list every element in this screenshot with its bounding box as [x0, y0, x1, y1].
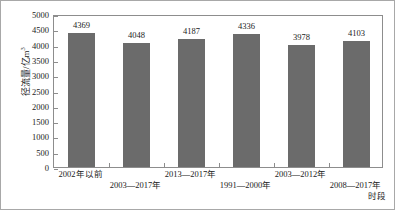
bar — [233, 34, 261, 167]
x-axis-tick-mark — [164, 163, 165, 167]
y-axis-tick-label: 4500 — [19, 26, 49, 35]
plot-area: 436940484187433639784103 — [53, 15, 383, 168]
bar — [123, 43, 151, 167]
bar-series: 436940484187433639784103 — [54, 16, 382, 167]
x-axis-tick-mark — [329, 163, 330, 167]
bar — [343, 41, 371, 167]
y-axis-tick-label: 2000 — [19, 103, 49, 112]
x-axis-tick-labels: 2002年以前2003—2017年2013—2017年1991—2000年200… — [1, 169, 395, 199]
y-axis-tick-mark — [54, 123, 58, 124]
y-axis-tick-mark — [54, 62, 58, 63]
bar-value-label: 4187 — [183, 27, 200, 36]
y-axis-tick-label: 5000 — [19, 11, 49, 20]
y-axis-tick-label: 3000 — [19, 72, 49, 81]
bar — [178, 39, 206, 167]
y-axis-tick-mark — [54, 93, 58, 94]
y-axis-tick-label: 3500 — [19, 57, 49, 66]
x-axis-tick-label: 2013—2017年 — [165, 170, 217, 179]
bar-value-label: 4103 — [348, 29, 365, 38]
bar — [68, 33, 96, 167]
y-axis-tick-label: 1500 — [19, 118, 49, 127]
y-axis-tick-mark — [54, 77, 58, 78]
y-axis-tick-mark — [54, 108, 58, 109]
y-axis-tick-label: 2500 — [19, 87, 49, 96]
y-axis-tick-label: 1000 — [19, 133, 49, 142]
bar-value-label: 4369 — [73, 21, 90, 30]
x-axis-tick-mark — [219, 163, 220, 167]
y-axis-tick-label: 4000 — [19, 41, 49, 50]
x-axis-tick-mark — [274, 163, 275, 167]
x-axis-tick-label: 1991—2000年 — [220, 181, 272, 190]
bar-value-label: 4048 — [128, 31, 145, 40]
x-axis-tick-label: 2008—2017年 — [330, 181, 382, 190]
x-axis-title: 时段 — [368, 192, 386, 201]
y-axis-tick-mark — [54, 154, 58, 155]
y-axis-tick-mark — [54, 16, 58, 17]
y-axis-tick-mark — [54, 138, 58, 139]
bar-value-label: 3978 — [293, 33, 310, 42]
bar — [288, 45, 316, 167]
x-axis-tick-mark — [109, 163, 110, 167]
x-axis-tick-label: 2003—2017年 — [110, 181, 162, 190]
y-axis-tick-mark — [54, 47, 58, 48]
y-axis-tick-label: 500 — [19, 148, 49, 157]
chart-figure: 径流量/亿m3 05001000150020002500300035004000… — [0, 0, 395, 210]
x-axis-tick-label: 2003—2012年 — [275, 170, 327, 179]
x-axis-tick-label: 2002年以前 — [59, 170, 103, 179]
bar-value-label: 4336 — [238, 22, 255, 31]
y-axis-tick-mark — [54, 31, 58, 32]
